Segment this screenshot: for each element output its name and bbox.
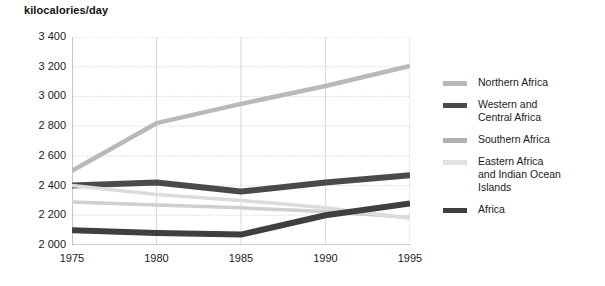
legend-item: Eastern Africa and Indian Ocean Islands	[443, 155, 603, 194]
x-axis-tick-labels: 19751980198519901995	[0, 252, 605, 272]
y-axis-tick-label: 2 200	[6, 208, 66, 220]
plot-area	[72, 37, 410, 245]
y-axis-tick-labels: 2 0002 2002 4002 6002 8003 0003 2003 400	[0, 0, 66, 286]
legend-swatch-icon	[443, 81, 467, 86]
legend-item: Northern Africa	[443, 76, 603, 89]
y-axis-tick-label: 3 400	[6, 30, 66, 42]
line-chart-svg	[72, 37, 410, 245]
legend-item: Southern Africa	[443, 133, 603, 146]
legend-swatch-icon	[443, 103, 467, 108]
legend-swatch-icon	[443, 160, 467, 165]
y-axis-tick-label: 2 600	[6, 149, 66, 161]
x-axis-tick-label: 1985	[219, 252, 263, 264]
y-axis-tick-label: 2 800	[6, 119, 66, 131]
legend-item-label: Northern Africa	[478, 76, 548, 89]
legend-item: Western and Central Africa	[443, 98, 603, 124]
y-axis-tick-label: 3 200	[6, 60, 66, 72]
legend-item-label: Western and Central Africa	[478, 98, 541, 124]
legend-swatch-icon	[443, 138, 467, 143]
legend-item-label: Southern Africa	[478, 133, 550, 146]
x-axis-tick-label: 1995	[388, 252, 432, 264]
y-axis-tick-label: 3 000	[6, 89, 66, 101]
legend-item-label: Eastern Africa and Indian Ocean Islands	[478, 155, 561, 194]
y-axis-tick-label: 2 000	[6, 238, 66, 250]
x-axis-tick-label: 1990	[304, 252, 348, 264]
chart-page: kilocalories/day 2 0002 2002 4002 6002 8…	[0, 0, 605, 286]
legend-item-label: Africa	[478, 203, 505, 216]
chart-legend: Northern AfricaWestern and Central Afric…	[443, 76, 603, 225]
legend-item: Africa	[443, 203, 603, 216]
legend-swatch-icon	[443, 208, 467, 213]
y-axis-tick-label: 2 400	[6, 179, 66, 191]
x-axis-tick-label: 1980	[135, 252, 179, 264]
x-axis-tick-label: 1975	[50, 252, 94, 264]
